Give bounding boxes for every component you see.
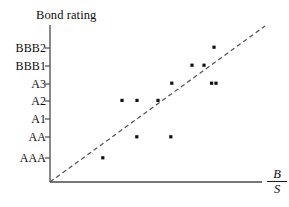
data-point (212, 46, 215, 49)
data-point (170, 82, 173, 85)
trendline-dashed (50, 26, 265, 182)
data-point (135, 135, 138, 138)
x-axis-label-numerator: B (266, 168, 288, 181)
data-point (210, 82, 213, 85)
y-axis-ticks (45, 48, 50, 158)
data-point (169, 135, 172, 138)
data-point (214, 82, 217, 85)
x-axis-label-denominator: S (266, 183, 288, 196)
data-point (202, 64, 205, 67)
data-point (156, 99, 159, 102)
x-axis-label: B S (266, 168, 288, 196)
bond-rating-scatter-figure: Bond rating BBB2 BBB1 A3 A2 A1 AA AAA (0, 0, 289, 207)
data-point (101, 156, 104, 159)
data-point (135, 99, 138, 102)
data-point (120, 99, 123, 102)
data-point (190, 64, 193, 67)
plot-area (0, 0, 289, 207)
